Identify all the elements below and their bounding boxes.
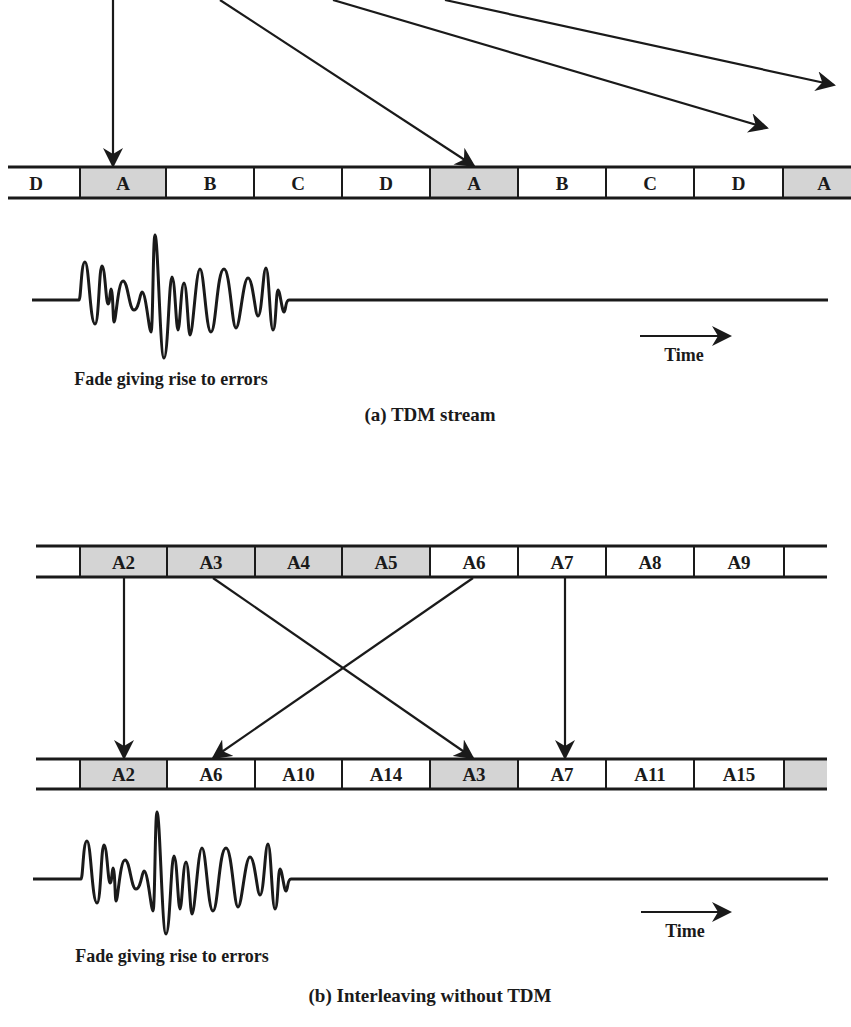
tdm-cell: C (291, 173, 305, 194)
time-label-b: Time (665, 921, 705, 941)
input-stream: A2A3A4A5A6A7A8A9 (36, 546, 827, 577)
input-cell: A8 (638, 552, 661, 573)
arrow-offscreen-1 (333, 0, 767, 128)
tdm-cell: C (643, 173, 657, 194)
tdm-cell: A (116, 173, 130, 194)
panel-b: A2A3A4A5A6A7A8A9 A2A6A10A14A3A7A11A15 Ti… (33, 546, 828, 1007)
fade-waveform-b (33, 812, 828, 934)
input-cell: A5 (374, 552, 397, 573)
input-cell: A4 (287, 552, 311, 573)
tdm-cell: D (29, 173, 43, 194)
output-cell: A11 (634, 764, 666, 785)
incoming-arrows (113, 0, 834, 166)
output-cell: A7 (550, 764, 574, 785)
tdm-cell: D (379, 173, 393, 194)
interleaving-diagram: DABCDABCDA Time Fade giving rise to erro… (0, 0, 851, 1027)
input-cell: A9 (727, 552, 750, 573)
caption-b: (b) Interleaving without TDM (309, 985, 552, 1007)
tdm-cell: A (467, 173, 481, 194)
cell-shading (784, 759, 827, 789)
caption-a: (a) TDM stream (364, 404, 495, 426)
output-cell: A10 (282, 764, 315, 785)
input-cell: A3 (199, 552, 222, 573)
interleave-arrows (124, 578, 565, 758)
output-cell: A6 (199, 764, 222, 785)
tdm-cell: D (732, 173, 746, 194)
arrow-to-second-a (220, 0, 474, 166)
tdm-cell: A (817, 173, 831, 194)
tdm-cell: B (556, 173, 569, 194)
fade-waveform-a (32, 235, 828, 358)
input-cell: A7 (550, 552, 574, 573)
time-label-a: Time (664, 345, 704, 365)
panel-a: DABCDABCDA Time Fade giving rise to erro… (8, 0, 851, 426)
fade-label-b: Fade giving rise to errors (75, 946, 269, 966)
tdm-cell: B (204, 173, 217, 194)
output-cell: A2 (112, 764, 135, 785)
output-cell: A15 (723, 764, 756, 785)
output-cell: A3 (462, 764, 485, 785)
input-cell: A2 (112, 552, 135, 573)
arrow-offscreen-2 (445, 0, 834, 85)
input-cell: A6 (462, 552, 485, 573)
tdm-stream: DABCDABCDA (8, 167, 851, 198)
output-stream: A2A6A10A14A3A7A11A15 (36, 759, 827, 789)
output-cell: A14 (370, 764, 403, 785)
fade-label-a: Fade giving rise to errors (74, 369, 268, 389)
